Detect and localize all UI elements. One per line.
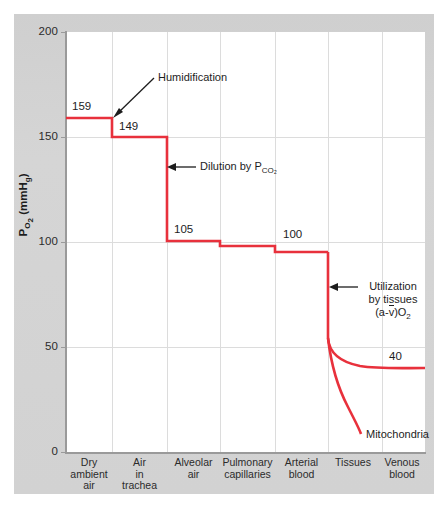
value-label-149: 149 bbox=[119, 120, 138, 132]
util-paren-open: (a- bbox=[375, 306, 388, 318]
annotation-arrow-humidification bbox=[118, 78, 154, 113]
annotation-humidification-label: Humidification bbox=[158, 71, 227, 84]
value-label-100: 100 bbox=[283, 228, 302, 240]
annotation-arrowhead-utilization bbox=[329, 283, 338, 291]
value-label-159: 159 bbox=[72, 100, 91, 112]
value-label-105: 105 bbox=[174, 223, 193, 235]
annotation-utilization-label: Utilization by tissues (a-v)O2 bbox=[362, 280, 424, 323]
figure-container: 200 150 100 50 0 PO2 (mmHg) Dry ambient … bbox=[0, 0, 448, 510]
annotation-mitochondria-label: Mitochondria bbox=[366, 428, 429, 441]
annotation-dilution-subscript: CO₂ bbox=[262, 166, 277, 175]
annotation-utilization-line3: (a-v)O2 bbox=[362, 306, 424, 323]
util-o2-subscript: 2 bbox=[406, 312, 410, 321]
annotation-utilization-line1: Utilization bbox=[362, 280, 424, 293]
annotation-dilution-text: Dilution by P bbox=[200, 160, 262, 172]
util-paren-close: )O bbox=[394, 306, 406, 318]
annotation-arrowhead-dilution bbox=[167, 163, 176, 171]
value-label-40: 40 bbox=[389, 350, 402, 362]
annotation-dilution-label: Dilution by PCO₂ bbox=[200, 160, 277, 177]
util-v-bar: v bbox=[389, 306, 395, 318]
